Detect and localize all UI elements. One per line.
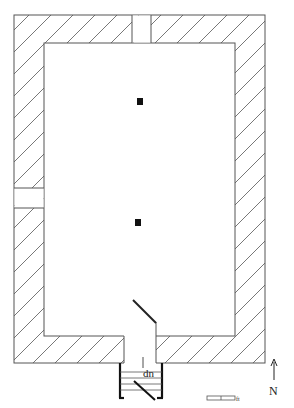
outer-wall-outline [14,15,265,363]
north-wall-opening [132,16,151,43]
south-doorway [124,335,156,364]
scale-unit-label: ft [236,396,240,402]
scale-bar: ft [207,396,240,402]
north-arrow: N [269,359,278,398]
stair-direction-label: dn [143,367,155,379]
inner-wall-outline [44,43,235,336]
pier-south [135,219,141,226]
pier-north [137,98,143,105]
west-wall-opening [15,188,44,208]
walls [14,15,265,364]
floor-plan: dn ft N [0,0,294,408]
north-label: N [269,384,278,398]
door-leaf [133,300,156,323]
wall-mass [14,15,265,363]
